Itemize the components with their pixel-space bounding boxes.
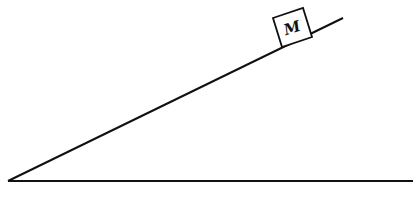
block-m: M [273, 8, 312, 47]
inclined-plane-diagram: M [0, 0, 413, 199]
